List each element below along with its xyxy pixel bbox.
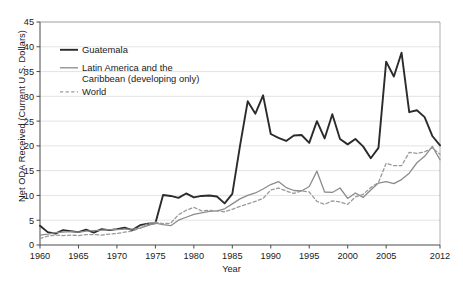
x-axis-title: Year [0,264,463,274]
chart-legend: GuatemalaLatin America and theCaribbean … [60,44,199,97]
svg-text:2000: 2000 [337,251,357,261]
svg-text:1980: 1980 [184,251,204,261]
svg-text:1985: 1985 [222,251,242,261]
svg-text:2005: 2005 [376,251,396,261]
svg-text:0: 0 [29,240,34,250]
legend-label-1: Latin America and the [82,62,173,73]
svg-text:1970: 1970 [107,251,127,261]
legend-label-3: World [82,86,106,97]
series-line-1 [40,146,440,235]
series-line-2 [40,148,440,239]
legend-label-2: Caribbean (developing only) [82,73,199,84]
svg-text:1995: 1995 [299,251,319,261]
legend-label-0: Guatemala [82,44,129,55]
svg-text:1965: 1965 [68,251,88,261]
svg-text:1960: 1960 [30,251,50,261]
chart-canvas: 051015202530354045 196019651970197519801… [0,0,463,284]
y-axis-title: Net ODA Received (Current U.S. Dollars) [17,6,31,226]
oda-line-chart: 051015202530354045 196019651970197519801… [0,0,463,284]
svg-text:1990: 1990 [261,251,281,261]
svg-text:1975: 1975 [145,251,165,261]
svg-text:2012: 2012 [430,251,450,261]
x-axis-tick-labels: 1960196519701975198019851990199520002005… [30,245,450,261]
